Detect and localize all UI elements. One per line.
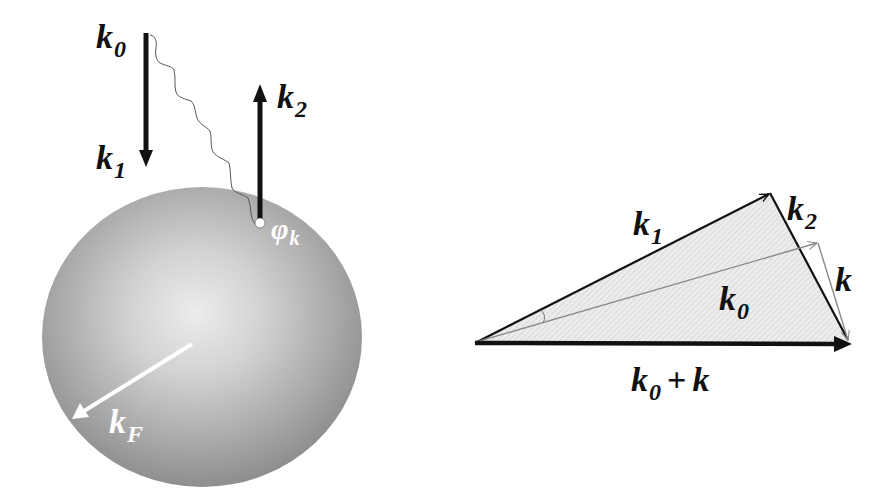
label-phi-k: φk [271, 214, 300, 244]
diagram-canvas: k0 k1 k2 φk kF k1 k2 k k0 k0+k [0, 0, 896, 500]
label-kF: kF [109, 405, 143, 439]
label-k2-left: k2 [277, 80, 307, 114]
label-k0-plus-k: k0+k [631, 363, 709, 397]
label-k0-right: k0 [719, 282, 749, 316]
label-k1-left: k1 [96, 141, 126, 175]
fermi-sphere [42, 187, 362, 487]
label-k1-right: k1 [633, 207, 663, 241]
label-k2-right: k2 [787, 192, 817, 226]
label-k-right: k [835, 263, 852, 297]
phi-k-point [255, 218, 265, 228]
label-k0-left: k0 [96, 20, 126, 54]
fermi-sphere-panel [42, 33, 362, 487]
k1-arrow-down [139, 33, 153, 167]
